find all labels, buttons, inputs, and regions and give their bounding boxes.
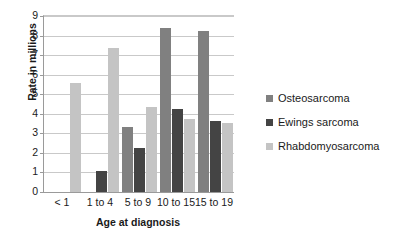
legend-item-label: Ewings sarcoma bbox=[278, 116, 359, 128]
bar[interactable] bbox=[172, 109, 183, 192]
y-axis-tick-label: 5 bbox=[22, 88, 38, 98]
x-axis-tick-label: 15 to 19 bbox=[195, 196, 233, 208]
x-axis-tick-label: 10 to 15 bbox=[157, 196, 195, 208]
chart-legend: OsteosarcomaEwings sarcomaRhabdomyosarco… bbox=[266, 86, 401, 158]
y-axis-tick-label: 4 bbox=[22, 108, 38, 118]
bar-chart: Rate in millions 0123456789 < 11 to 45 t… bbox=[0, 0, 401, 246]
plot-area bbox=[43, 15, 234, 192]
y-axis-tick-label: 0 bbox=[22, 186, 38, 196]
bar[interactable] bbox=[198, 31, 209, 192]
y-axis-tick-mark bbox=[40, 192, 44, 193]
x-axis-tick-labels: < 11 to 45 to 910 to 1515 to 19 bbox=[43, 196, 233, 212]
bar[interactable] bbox=[70, 83, 81, 192]
y-axis-tick-label: 9 bbox=[22, 10, 38, 20]
legend-swatch-ewings-sarcoma bbox=[266, 119, 273, 126]
gridline bbox=[44, 192, 234, 193]
x-axis-title: Age at diagnosis bbox=[43, 216, 233, 228]
legend-swatch-rhabdomyosarcoma bbox=[266, 143, 273, 150]
legend-item[interactable]: Osteosarcoma bbox=[266, 86, 401, 110]
bar-group bbox=[160, 16, 195, 192]
legend-swatch-osteosarcoma bbox=[266, 95, 273, 102]
bar[interactable] bbox=[210, 121, 221, 192]
bar-group bbox=[122, 16, 157, 192]
y-axis-tick-label: 1 bbox=[22, 166, 38, 176]
y-axis-tick-label: 7 bbox=[22, 49, 38, 59]
bar[interactable] bbox=[146, 107, 157, 192]
bar-group bbox=[198, 16, 233, 192]
bar[interactable] bbox=[160, 28, 171, 192]
bar[interactable] bbox=[108, 48, 119, 192]
y-axis-tick-labels: 0123456789 bbox=[22, 15, 38, 191]
legend-item-label: Rhabdomyosarcoma bbox=[278, 140, 380, 152]
y-axis-tick-label: 3 bbox=[22, 127, 38, 137]
bar[interactable] bbox=[222, 123, 233, 192]
bar-group bbox=[46, 16, 81, 192]
bars-layer bbox=[44, 16, 234, 192]
x-axis-tick-label: 1 to 4 bbox=[81, 196, 119, 208]
x-axis-tick-label: < 1 bbox=[43, 196, 81, 208]
bar[interactable] bbox=[96, 171, 107, 193]
bar[interactable] bbox=[122, 127, 133, 193]
y-axis-tick-label: 2 bbox=[22, 147, 38, 157]
bar-group bbox=[84, 16, 119, 192]
x-axis-tick-label: 5 to 9 bbox=[119, 196, 157, 208]
bar[interactable] bbox=[184, 119, 195, 192]
y-axis-tick-label: 8 bbox=[22, 30, 38, 40]
legend-item[interactable]: Rhabdomyosarcoma bbox=[266, 134, 401, 158]
legend-item-label: Osteosarcoma bbox=[278, 92, 350, 104]
y-axis-tick-label: 6 bbox=[22, 69, 38, 79]
legend-item[interactable]: Ewings sarcoma bbox=[266, 110, 401, 134]
bar[interactable] bbox=[134, 148, 145, 192]
